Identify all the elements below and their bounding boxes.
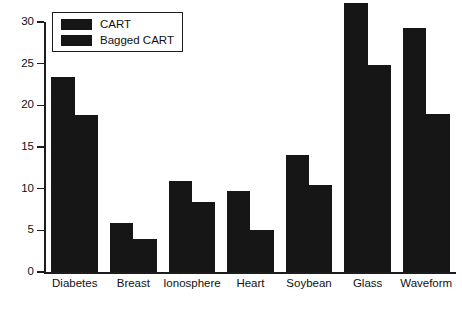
bar-cart bbox=[51, 77, 74, 272]
plot-area bbox=[46, 22, 456, 272]
y-axis-tick bbox=[37, 230, 44, 232]
legend-swatch-bagged-cart bbox=[61, 35, 92, 46]
bar-bagged-cart bbox=[192, 202, 215, 272]
bar-group bbox=[344, 22, 391, 272]
y-axis-tick-label: 15 bbox=[4, 141, 34, 153]
y-axis-tick-label: 25 bbox=[4, 58, 34, 70]
bar-bagged-cart bbox=[133, 239, 156, 272]
y-axis-tick-label: 10 bbox=[4, 183, 34, 195]
bar-bagged-cart bbox=[250, 230, 273, 272]
y-axis-tick bbox=[37, 188, 44, 190]
bar-cart bbox=[286, 155, 309, 273]
bar-bagged-cart bbox=[368, 65, 391, 272]
bar-group bbox=[51, 22, 98, 272]
y-axis-tick-label: 30 bbox=[4, 16, 34, 28]
legend-entry-cart: CART bbox=[61, 18, 131, 31]
bar-group bbox=[169, 22, 216, 272]
bar-group bbox=[286, 22, 333, 272]
bar-cart bbox=[403, 28, 426, 272]
bar-chart: 051015202530 DiabetesBreastIonosphereHea… bbox=[0, 0, 462, 309]
bar-cart bbox=[227, 191, 250, 272]
bar-bagged-cart bbox=[75, 115, 98, 272]
legend-label-cart: CART bbox=[100, 19, 131, 31]
y-axis-tick bbox=[37, 63, 44, 65]
legend-swatch-cart bbox=[61, 19, 92, 30]
bar-bagged-cart bbox=[426, 114, 449, 272]
y-axis-tick bbox=[37, 21, 44, 23]
bar-cart bbox=[110, 223, 133, 272]
legend-entry-bagged-cart: Bagged CART bbox=[61, 34, 174, 47]
y-axis-tick-label: 5 bbox=[4, 224, 34, 236]
bar-group bbox=[227, 22, 274, 272]
bar-group bbox=[403, 22, 450, 272]
bar-cart bbox=[169, 181, 192, 272]
y-axis-tick-label: 0 bbox=[4, 266, 34, 278]
bar-cart bbox=[344, 3, 367, 272]
legend-label-bagged-cart: Bagged CART bbox=[100, 35, 174, 47]
y-axis-tick bbox=[37, 271, 44, 273]
y-axis-tick bbox=[37, 105, 44, 107]
bar-bagged-cart bbox=[309, 185, 332, 272]
bar-group bbox=[110, 22, 157, 272]
y-axis-tick-label: 20 bbox=[4, 99, 34, 111]
y-axis-tick bbox=[37, 146, 44, 148]
chart-legend: CART Bagged CART bbox=[52, 12, 183, 52]
x-axis-label: Waveform bbox=[382, 278, 462, 290]
